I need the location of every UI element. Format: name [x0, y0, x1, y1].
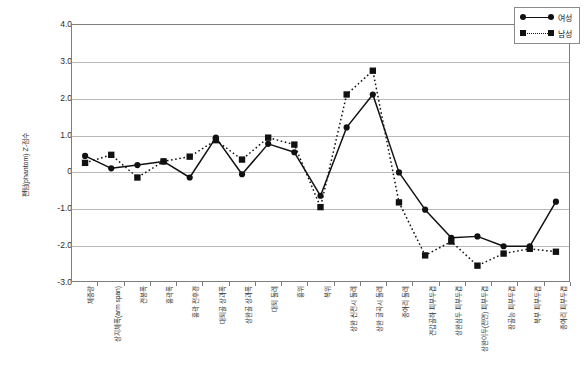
y-axis-tick-label: -1.0	[28, 203, 72, 213]
data-point-marker	[213, 137, 219, 143]
data-point-marker	[370, 68, 376, 74]
x-axis-category-label: 견봉폭	[140, 286, 148, 370]
data-point-marker	[265, 141, 271, 147]
legend-entry-female: 여성	[520, 12, 572, 23]
x-axis-category-label: 복부 피부두겹	[534, 286, 542, 370]
x-axis-category-label: 대퇴골 상과폭	[219, 286, 227, 370]
x-axis-category-label: 상완 신전시 둘레	[350, 286, 358, 370]
series-line-남성	[85, 71, 556, 266]
y-axis-tick-label: 0	[28, 166, 72, 176]
x-axis-category-label: 상완이두(전면) 피부두겹	[481, 286, 489, 370]
legend-key-solid-circle	[520, 13, 554, 22]
x-axis-category-label: 흉곽 전후경	[192, 286, 200, 370]
data-point-marker	[187, 174, 193, 180]
x-axis-category-label: 상완골 상과폭	[245, 286, 253, 370]
data-point-marker	[317, 193, 323, 199]
chart-canvas: 팬텀(phantom) Z-점수 4.03.02.01.00-1.0-2.0-3…	[0, 0, 588, 374]
data-point-marker	[317, 204, 323, 210]
data-point-marker	[448, 238, 454, 244]
data-point-marker	[291, 141, 297, 147]
x-axis-category-label: 상완삼두 피부두겹	[455, 286, 463, 370]
y-axis-tick-labels: 4.03.02.01.00-1.0-2.0-3.0	[0, 0, 72, 374]
data-point-marker	[396, 199, 402, 205]
x-axis-tick	[570, 282, 571, 286]
data-point-marker	[553, 199, 559, 205]
data-point-marker	[343, 91, 349, 97]
series-line-여성	[85, 94, 556, 246]
x-axis-category-label: 견갑골하 피부두겹	[429, 286, 437, 370]
y-axis-tick-label: 3.0	[28, 56, 72, 66]
data-point-marker	[239, 156, 245, 162]
x-axis-category-label: 상완 굴곡시 둘레	[376, 286, 384, 370]
data-point-marker	[239, 171, 245, 177]
x-axis-category-label: 흉곽폭	[166, 286, 174, 370]
data-point-marker	[501, 243, 507, 249]
data-point-marker	[134, 162, 140, 168]
data-point-marker	[134, 174, 140, 180]
data-point-marker	[291, 149, 297, 155]
legend-label-female: 여성	[558, 12, 572, 23]
data-series-layer	[72, 25, 569, 281]
x-axis-category-label: 흉위	[297, 286, 305, 370]
data-point-marker	[344, 124, 350, 130]
y-axis-tick-label: 1.0	[28, 130, 72, 140]
data-point-marker	[82, 153, 88, 159]
x-axis-category-label: 종아리 피부두겹	[560, 286, 568, 370]
x-axis-category-label: 장골능 피부두겹	[508, 286, 516, 370]
data-point-marker	[553, 249, 559, 255]
data-point-marker	[187, 153, 193, 159]
data-point-marker	[396, 169, 402, 175]
legend-key-dotted-square	[520, 29, 554, 38]
data-point-marker	[108, 152, 114, 158]
legend-label-male: 남성	[558, 28, 572, 39]
data-point-marker	[108, 165, 114, 171]
data-point-marker	[422, 207, 428, 213]
legend-entry-male: 남성	[520, 28, 572, 39]
x-axis-category-label: 상지체폭(arm span)	[114, 286, 122, 370]
x-axis-category-label: 체중량	[87, 286, 95, 370]
y-axis-tick-label: 2.0	[28, 93, 72, 103]
y-axis-tick-label: 4.0	[28, 19, 72, 29]
data-point-marker	[370, 91, 376, 97]
y-axis-tick-label: -3.0	[28, 277, 72, 287]
data-point-marker	[82, 160, 88, 166]
x-axis-category-label: 복위	[324, 286, 332, 370]
plot-area	[71, 24, 570, 282]
data-point-marker	[265, 134, 271, 140]
data-point-marker	[474, 262, 480, 268]
data-point-marker	[160, 158, 166, 164]
data-point-marker	[474, 233, 480, 239]
data-point-marker	[500, 250, 506, 256]
x-axis-category-labels: 체중량상지체폭(arm span)견봉폭흉곽폭흉곽 전후경대퇴골 상과폭상완골 …	[71, 286, 570, 374]
data-point-marker	[422, 252, 428, 258]
x-axis-category-label: 대퇴 둘레	[271, 286, 279, 370]
chart-legend: 여성 남성	[514, 7, 580, 44]
x-axis-category-label: 종아리 둘레	[402, 286, 410, 370]
data-point-marker	[527, 246, 533, 252]
y-axis-tick-label: -2.0	[28, 240, 72, 250]
